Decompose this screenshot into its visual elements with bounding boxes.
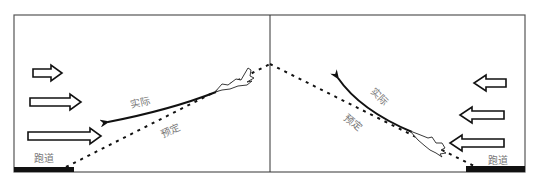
aircraft-right-icon xyxy=(410,131,446,157)
diagram-canvas xyxy=(0,0,536,186)
wind-arrow-right-3 xyxy=(450,135,504,151)
actual-path-left xyxy=(108,92,216,122)
wind-arrow-right-1 xyxy=(474,75,506,91)
aircraft-left-icon xyxy=(215,68,254,92)
right-panel xyxy=(270,64,525,172)
wind-arrow-left-1 xyxy=(33,65,62,81)
runway-label-right: 跑道 xyxy=(488,152,508,167)
wind-arrow-right-2 xyxy=(460,107,504,123)
runway-left xyxy=(14,167,74,172)
wind-arrow-left-3 xyxy=(28,128,101,144)
wind-arrow-left-2 xyxy=(30,94,81,110)
runway-label-left: 跑道 xyxy=(34,150,54,165)
planned-path-right xyxy=(270,64,474,166)
